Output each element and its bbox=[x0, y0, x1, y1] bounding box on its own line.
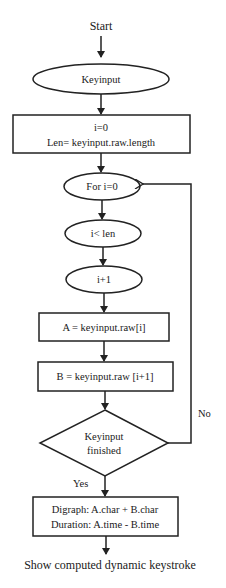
node-condition: i< len bbox=[65, 220, 141, 247]
init-text-line1: i=0 bbox=[94, 122, 108, 133]
condition-text: i< len bbox=[91, 228, 116, 239]
result-text-line2: Duration: A.time - B.time bbox=[51, 519, 160, 530]
start-label: Start bbox=[90, 19, 113, 33]
increment-text: i+1 bbox=[97, 274, 111, 285]
init-text-line2: Len= keyinput.raw.length bbox=[47, 137, 156, 148]
decision-text-line2: finished bbox=[87, 445, 122, 456]
keyinput-text: Keyinput bbox=[81, 74, 120, 85]
node-result: Digraph: A.char + B.char Duration: A.tim… bbox=[33, 497, 178, 536]
for-loop-text: For i=0 bbox=[86, 181, 117, 192]
node-assign-a: A = keyinput.raw[i] bbox=[39, 313, 169, 341]
decision-text-line1: Keyinput bbox=[84, 431, 123, 442]
node-increment: i+1 bbox=[66, 266, 142, 293]
assign-b-text: B = keyinput.raw [i+1] bbox=[57, 371, 154, 382]
flowchart: Start Keyinput i=0 Len= keyinput.raw.len… bbox=[0, 0, 226, 588]
node-init: i=0 Len= keyinput.raw.length bbox=[13, 115, 190, 153]
end-label: Show computed dynamic keystroke bbox=[24, 558, 196, 572]
node-keyinput: Keyinput bbox=[33, 64, 169, 94]
edge-label-yes: Yes bbox=[73, 478, 88, 489]
decision-diamond bbox=[40, 410, 168, 476]
assign-a-text: A = keyinput.raw[i] bbox=[62, 322, 145, 333]
node-assign-b: B = keyinput.raw [i+1] bbox=[38, 362, 173, 391]
edge-label-no: No bbox=[198, 408, 211, 419]
node-decision: Keyinput finished bbox=[40, 410, 168, 476]
node-for-loop: For i=0 bbox=[64, 173, 140, 200]
result-text-line1: Digraph: A.char + B.char bbox=[52, 504, 159, 515]
result-box bbox=[33, 497, 178, 536]
